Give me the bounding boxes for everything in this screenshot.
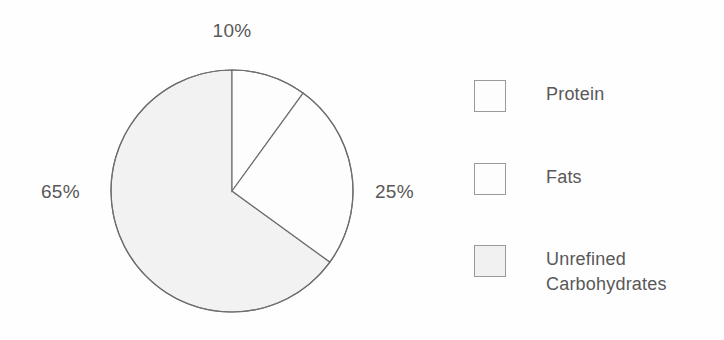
legend-label-protein: Protein <box>546 82 604 107</box>
legend-swatch-protein <box>474 80 506 112</box>
legend-label-fats: Fats <box>546 165 582 190</box>
legend-label-carbohydrates: Unrefined Carbohydrates <box>546 247 667 297</box>
pie-label-fats-percent: 25% <box>375 181 414 203</box>
legend-item-protein[interactable]: Protein <box>474 80 604 112</box>
pie-label-protein-percent: 10% <box>213 20 252 42</box>
pie-label-carbohydrates-percent: 65% <box>41 181 80 203</box>
legend-item-fats[interactable]: Fats <box>474 163 582 195</box>
pie-chart-figure: 10% 25% 65% Protein Fats Unrefined Carbo… <box>0 0 724 340</box>
pie-chart-plot-area: 10% 25% 65% <box>0 0 460 340</box>
legend-swatch-fats <box>474 163 506 195</box>
legend-item-carbohydrates[interactable]: Unrefined Carbohydrates <box>474 245 667 297</box>
legend-swatch-carbohydrates <box>474 245 506 277</box>
pie-chart-svg <box>0 0 460 340</box>
